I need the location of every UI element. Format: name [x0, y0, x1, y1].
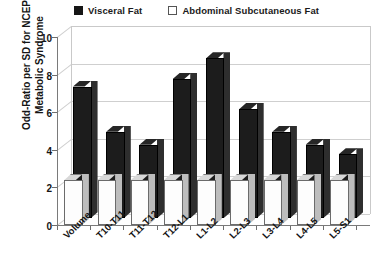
bar-side-face [157, 139, 164, 218]
x-tick-mark-7 [290, 226, 291, 230]
grid-depth-6 [57, 101, 72, 113]
bar-side-face [223, 52, 230, 218]
x-tick-mark-1 [90, 226, 91, 230]
bar-side-face [91, 81, 98, 219]
x-tick-mark-6 [256, 226, 257, 230]
bar-side-face [257, 103, 264, 218]
y-tick-label-0: 0 [30, 216, 52, 234]
x-tick-mark-4 [190, 226, 191, 230]
y-tick-label-4: 4 [30, 141, 52, 159]
x-tick-mark-end [356, 226, 357, 230]
x-tick-mark-5 [223, 226, 224, 230]
x-tick-mark-0 [57, 226, 58, 230]
bar-side-face [323, 139, 330, 218]
y-tick-label-6: 6 [30, 103, 52, 121]
x-tick-mark-2 [123, 226, 124, 230]
plot-frame-back-right [370, 26, 371, 214]
bar-side-face [314, 174, 321, 225]
y-tick-label-8: 8 [30, 66, 52, 84]
bar-side-face [248, 174, 255, 225]
grid-depth-10 [57, 26, 72, 38]
bar-side-face [356, 148, 363, 218]
y-tick-label-10: 10 [30, 28, 52, 46]
bar-side-face [124, 126, 131, 219]
bar-side-face [281, 174, 288, 225]
bar-side-face [190, 73, 197, 218]
y-tick-label-2: 2 [30, 178, 52, 196]
grid-depth-8 [57, 64, 72, 76]
plot-area: 0246810VolumeT10-T11T11-T12T12-L1L1-L2L2… [0, 0, 385, 280]
bar-side-face [290, 126, 297, 219]
bar-side-face [215, 174, 222, 225]
plot-frame-top [71, 26, 370, 27]
y-axis-line [57, 37, 58, 225]
x-tick-mark-8 [323, 226, 324, 230]
grid-depth-4 [57, 139, 72, 151]
chart-container: Visceral Fat Abdominal Subcutaneous Fat … [0, 0, 385, 280]
x-tick-mark-3 [157, 226, 158, 230]
